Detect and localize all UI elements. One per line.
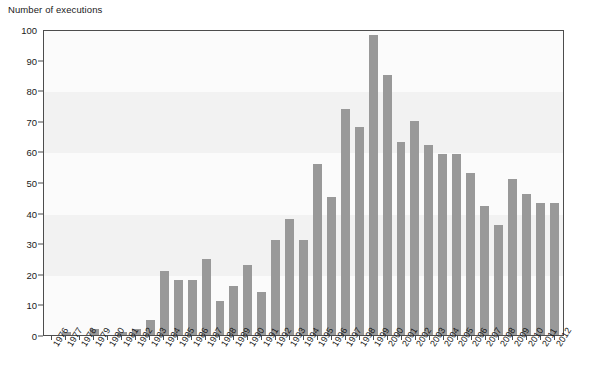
bar xyxy=(299,240,308,335)
bar-slot xyxy=(46,31,60,335)
y-axis-tick-label: 10 xyxy=(26,300,37,311)
bar xyxy=(243,265,252,335)
bar xyxy=(341,109,350,335)
x-axis-label-slot: 1984 xyxy=(157,341,171,381)
bar-slot xyxy=(324,31,338,335)
x-axis-label-slot: 1987 xyxy=(199,341,213,381)
x-axis-label-slot: 2003 xyxy=(422,341,436,381)
bar-slot xyxy=(492,31,506,335)
bar xyxy=(522,194,531,335)
y-axis-tick-label: 50 xyxy=(26,178,37,189)
bar-slot xyxy=(533,31,547,335)
bar-slot xyxy=(338,31,352,335)
chart-figure: Number of executions 0102030405060708090… xyxy=(0,0,589,382)
bar xyxy=(452,154,461,335)
x-axis-labels: 1976197719781979198019811982198319841985… xyxy=(43,341,564,381)
y-axis-tick-label: 30 xyxy=(26,239,37,250)
x-axis-label-slot: 1994 xyxy=(296,341,310,381)
bar xyxy=(424,145,433,335)
x-axis-label-slot: 1985 xyxy=(171,341,185,381)
bar-slot xyxy=(227,31,241,335)
y-axis-tick-label: 20 xyxy=(26,269,37,280)
bar-slot xyxy=(241,31,255,335)
y-axis-title: Number of executions xyxy=(8,4,102,15)
x-axis-label-slot: 2011 xyxy=(534,341,548,381)
x-axis-label-slot: 2009 xyxy=(506,341,520,381)
x-axis-label-slot: 2004 xyxy=(436,341,450,381)
bar xyxy=(480,206,489,335)
bar xyxy=(397,142,406,335)
x-axis-label-slot: 1995 xyxy=(310,341,324,381)
bar-slot xyxy=(464,31,478,335)
bar-slot xyxy=(505,31,519,335)
bar xyxy=(327,197,336,335)
x-axis-label-slot: 1979 xyxy=(87,341,101,381)
bar xyxy=(383,75,392,335)
bar xyxy=(438,154,447,335)
bar-slot xyxy=(88,31,102,335)
x-axis-label-slot: 2010 xyxy=(520,341,534,381)
x-axis-label-slot: 1992 xyxy=(269,341,283,381)
y-axis-tick-label: 40 xyxy=(26,208,37,219)
y-axis-tick-label: 60 xyxy=(26,147,37,158)
bar xyxy=(160,271,169,335)
bar xyxy=(355,127,364,335)
y-axis-tick-label: 80 xyxy=(26,86,37,97)
bar-slot xyxy=(478,31,492,335)
x-axis-label-slot: 2002 xyxy=(408,341,422,381)
x-axis-label-slot: 1978 xyxy=(73,341,87,381)
x-axis: 1976197719781979198019811982198319841985… xyxy=(43,336,564,382)
bar-slot xyxy=(519,31,533,335)
bar-slot xyxy=(408,31,422,335)
y-axis-tick-label: 100 xyxy=(21,25,37,36)
bar-slot xyxy=(157,31,171,335)
x-axis-label-slot: 2006 xyxy=(464,341,478,381)
bar-slot xyxy=(185,31,199,335)
x-axis-label-slot: 1982 xyxy=(129,341,143,381)
bar xyxy=(271,240,280,335)
x-axis-label-slot: 1986 xyxy=(185,341,199,381)
x-axis-label-slot: 1998 xyxy=(352,341,366,381)
bar-slot xyxy=(436,31,450,335)
x-axis-label-slot: 1988 xyxy=(213,341,227,381)
bar-slot xyxy=(380,31,394,335)
x-axis-label-slot: 2008 xyxy=(492,341,506,381)
x-axis-label-slot: 2001 xyxy=(394,341,408,381)
bar-slot xyxy=(269,31,283,335)
bar-slot xyxy=(297,31,311,335)
bar-series xyxy=(44,31,563,335)
bar-slot xyxy=(311,31,325,335)
bar-slot xyxy=(74,31,88,335)
bar xyxy=(550,203,559,335)
bar-slot xyxy=(283,31,297,335)
bar xyxy=(508,179,517,335)
bar-slot xyxy=(116,31,130,335)
x-axis-label-slot: 1980 xyxy=(101,341,115,381)
bar-slot xyxy=(255,31,269,335)
bar xyxy=(536,203,545,335)
bar-slot xyxy=(171,31,185,335)
bar-slot xyxy=(130,31,144,335)
bar xyxy=(285,219,294,335)
bar xyxy=(466,173,475,335)
bar xyxy=(369,35,378,335)
x-axis-label-slot: 1993 xyxy=(282,341,296,381)
bar-slot xyxy=(422,31,436,335)
bar-slot xyxy=(394,31,408,335)
x-axis-label-slot: 1991 xyxy=(255,341,269,381)
x-axis-label-slot: 1990 xyxy=(241,341,255,381)
y-axis-tick-label: 70 xyxy=(26,116,37,127)
bar-slot xyxy=(60,31,74,335)
x-axis-label-slot: 1983 xyxy=(143,341,157,381)
x-axis-label-slot: 1976 xyxy=(45,341,59,381)
x-axis-label-slot: 2005 xyxy=(450,341,464,381)
plot-area xyxy=(43,30,564,336)
x-axis-label-slot: 1981 xyxy=(115,341,129,381)
bar-slot xyxy=(213,31,227,335)
bar-slot xyxy=(143,31,157,335)
x-axis-label-slot: 2007 xyxy=(478,341,492,381)
bar-slot xyxy=(199,31,213,335)
x-axis-label-slot: 2012 xyxy=(548,341,562,381)
bar-slot xyxy=(102,31,116,335)
bar xyxy=(202,259,211,336)
